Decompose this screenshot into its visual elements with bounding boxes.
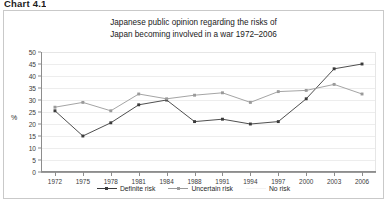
chart-figure-frame: Japanese public opinion regarding the ri… <box>3 10 384 199</box>
x-tick-label-1991: 1991 <box>215 178 229 185</box>
x-tick-label-2006: 2006 <box>355 178 369 185</box>
legend-swatch-square-marker <box>168 185 188 192</box>
series-definite-risk <box>54 63 364 138</box>
legend-item-no-risk[interactable]: No risk <box>246 185 290 192</box>
data-point-marker <box>165 97 168 100</box>
data-point-marker <box>305 89 308 92</box>
chart-legend: Definite riskUncertain riskNo risk <box>4 185 383 192</box>
data-point-marker <box>249 123 252 126</box>
y-tick-label-20: 20 <box>29 121 36 128</box>
data-point-marker <box>221 91 224 94</box>
x-tick-label-1997: 1997 <box>271 178 285 185</box>
data-point-marker <box>109 109 112 112</box>
data-point-marker <box>81 135 84 138</box>
y-tick-label-10: 10 <box>29 145 36 152</box>
chart-title-line-1: Japanese public opinion regarding the ri… <box>4 17 383 29</box>
series-layer <box>39 52 376 174</box>
legend-swatch-diamond-marker <box>97 185 117 192</box>
data-point-marker <box>193 94 196 97</box>
plot-inner: 05101520253035404550 1972197519781981198… <box>39 52 376 172</box>
data-point-marker <box>81 101 84 104</box>
legend-label: No risk <box>269 185 290 192</box>
data-point-marker <box>249 101 252 104</box>
data-point-marker <box>109 121 112 124</box>
x-tick-label-1981: 1981 <box>132 178 146 185</box>
y-tick-label-30: 30 <box>29 97 36 104</box>
x-tick-label-1988: 1988 <box>187 178 201 185</box>
data-point-marker <box>361 93 364 96</box>
data-point-marker <box>221 118 224 121</box>
series-line <box>55 64 362 136</box>
x-tick-label-1978: 1978 <box>104 178 118 185</box>
x-tick-label-1994: 1994 <box>243 178 257 185</box>
y-tick-label-25: 25 <box>29 109 36 116</box>
y-tick-label-15: 15 <box>29 133 36 140</box>
x-tick-label-1972: 1972 <box>48 178 62 185</box>
x-tick-label-2000: 2000 <box>299 178 313 185</box>
y-tick-label-0: 0 <box>32 169 36 176</box>
legend-swatch-none <box>246 185 266 192</box>
y-tick-label-5: 5 <box>32 157 36 164</box>
y-tick-label-35: 35 <box>29 85 36 92</box>
data-point-marker <box>277 90 280 93</box>
data-point-marker <box>333 67 336 70</box>
series-line <box>55 84 362 110</box>
legend-item-uncertain-risk[interactable]: Uncertain risk <box>168 185 233 192</box>
legend-line <box>246 188 266 189</box>
legend-label: Uncertain risk <box>191 185 233 192</box>
y-axis-title: % <box>11 114 17 121</box>
chart-number-label: Chart 4.1 <box>4 0 46 8</box>
data-point-marker <box>277 120 280 123</box>
data-point-marker <box>305 97 308 100</box>
data-point-marker <box>54 109 57 112</box>
data-point-marker <box>137 103 140 106</box>
data-point-marker <box>54 106 57 109</box>
data-point-marker <box>193 120 196 123</box>
chart-title: Japanese public opinion regarding the ri… <box>4 17 383 40</box>
y-tick-label-45: 45 <box>29 61 36 68</box>
x-tick-label-1975: 1975 <box>76 178 90 185</box>
x-tick-label-2003: 2003 <box>327 178 341 185</box>
data-point-marker <box>361 63 364 66</box>
legend-item-definite-risk[interactable]: Definite risk <box>97 185 156 192</box>
chart-title-line-2: Japan becoming involved in a war 1972–20… <box>4 29 383 41</box>
y-tick-label-50: 50 <box>29 49 36 56</box>
plot-area: 05101520253035404550 1972197519781981198… <box>39 52 376 172</box>
legend-label: Definite risk <box>120 185 156 192</box>
data-point-marker <box>137 93 140 96</box>
data-point-marker <box>333 83 336 86</box>
x-tick-label-1984: 1984 <box>160 178 174 185</box>
diamond-marker <box>105 187 108 190</box>
y-tick-label-40: 40 <box>29 73 36 80</box>
square-marker <box>177 187 180 190</box>
